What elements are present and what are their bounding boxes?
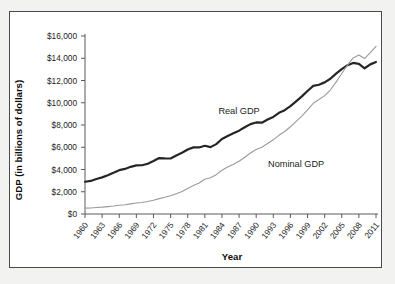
y-axis-title: GDP (in billions of dollars) xyxy=(13,80,24,200)
y-axis-ticks: $0$2,000$4,000$6,000$8,000$10,000$12,000… xyxy=(47,31,85,219)
x-tick-label: 2011 xyxy=(362,220,381,241)
x-tick-label: 1987 xyxy=(225,220,244,241)
series-label: Nominal GDP xyxy=(268,159,324,169)
figure-container: $0$2,000$4,000$6,000$8,000$10,000$12,000… xyxy=(0,0,395,284)
x-tick-label: 1975 xyxy=(156,220,175,241)
y-tick-label: $14,000 xyxy=(47,53,77,63)
x-tick-label: 1966 xyxy=(105,220,124,241)
chart-frame: $0$2,000$4,000$6,000$8,000$10,000$12,000… xyxy=(9,11,382,268)
x-tick-label: 1972 xyxy=(139,220,158,241)
x-tick-label: 1963 xyxy=(88,220,107,241)
y-tick-label: $16,000 xyxy=(47,31,77,41)
x-tick-label: 1996 xyxy=(276,220,295,241)
x-axis-ticks: 1960196319661969197219751978198119841987… xyxy=(71,214,381,241)
series-annotations: Real GDPNominal GDP xyxy=(218,106,324,169)
x-tick-label: 1978 xyxy=(174,220,193,241)
x-tick-label: 1984 xyxy=(208,220,227,241)
y-tick-label: $2,000 xyxy=(52,187,78,197)
x-tick-label: 2008 xyxy=(345,220,364,241)
x-tick-label: 1999 xyxy=(293,220,312,241)
y-tick-label: $4,000 xyxy=(52,165,78,175)
y-tick-label: $12,000 xyxy=(47,76,77,86)
series-line xyxy=(85,62,376,182)
x-tick-label: 2002 xyxy=(310,220,329,241)
y-tick-label: $8,000 xyxy=(52,120,78,130)
series-line xyxy=(85,46,376,208)
y-tick-label: $6,000 xyxy=(52,142,78,152)
x-tick-label: 1960 xyxy=(71,220,90,241)
x-tick-label: 2005 xyxy=(328,220,347,241)
x-tick-label: 1969 xyxy=(122,220,141,241)
gdp-line-chart: $0$2,000$4,000$6,000$8,000$10,000$12,000… xyxy=(10,12,381,267)
y-tick-label: $0 xyxy=(68,209,78,219)
data-series-group xyxy=(85,46,376,208)
x-tick-label: 1981 xyxy=(191,220,210,241)
series-label: Real GDP xyxy=(218,106,259,116)
y-tick-label: $10,000 xyxy=(47,98,77,108)
x-tick-label: 1990 xyxy=(242,220,261,241)
x-tick-label: 1993 xyxy=(259,220,278,241)
x-axis-title: Year xyxy=(222,251,243,262)
